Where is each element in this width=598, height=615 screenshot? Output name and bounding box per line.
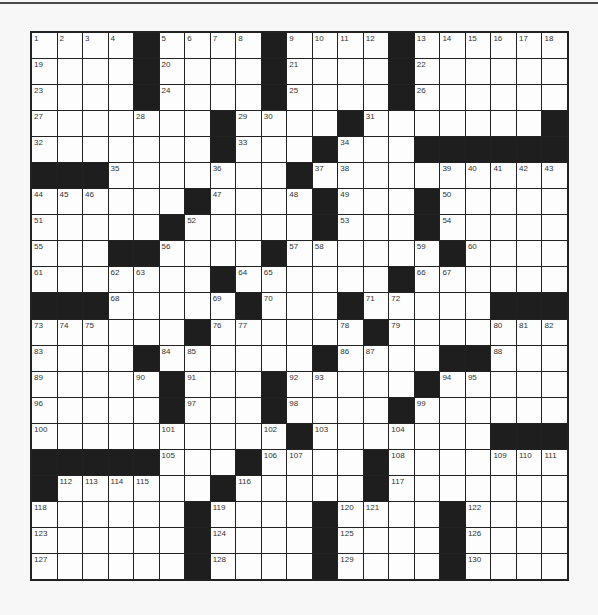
answer-cell[interactable] — [415, 554, 440, 579]
answer-cell[interactable] — [542, 398, 567, 423]
answer-cell[interactable]: 18 — [542, 33, 567, 58]
answer-cell[interactable]: 57 — [287, 241, 312, 266]
answer-cell[interactable] — [160, 163, 185, 188]
answer-cell[interactable] — [236, 346, 261, 371]
answer-cell[interactable] — [364, 267, 389, 292]
answer-cell[interactable] — [389, 111, 414, 136]
answer-cell[interactable] — [364, 554, 389, 579]
answer-cell[interactable]: 87 — [364, 346, 389, 371]
answer-cell[interactable] — [58, 346, 83, 371]
answer-cell[interactable] — [185, 137, 210, 162]
answer-cell[interactable] — [313, 59, 338, 84]
answer-cell[interactable]: 99 — [415, 398, 440, 423]
answer-cell[interactable] — [185, 424, 210, 449]
answer-cell[interactable]: 59 — [415, 241, 440, 266]
answer-cell[interactable] — [313, 267, 338, 292]
answer-cell[interactable] — [466, 398, 491, 423]
answer-cell[interactable] — [517, 85, 542, 110]
answer-cell[interactable] — [517, 267, 542, 292]
answer-cell[interactable]: 82 — [542, 320, 567, 345]
answer-cell[interactable] — [491, 372, 516, 397]
answer-cell[interactable]: 106 — [262, 450, 287, 475]
answer-cell[interactable] — [415, 346, 440, 371]
answer-cell[interactable]: 55 — [32, 241, 57, 266]
answer-cell[interactable] — [389, 137, 414, 162]
answer-cell[interactable]: 89 — [32, 372, 57, 397]
answer-cell[interactable] — [338, 424, 363, 449]
answer-cell[interactable] — [185, 476, 210, 501]
answer-cell[interactable] — [211, 450, 236, 475]
answer-cell[interactable]: 1 — [32, 33, 57, 58]
answer-cell[interactable] — [262, 320, 287, 345]
answer-cell[interactable] — [134, 163, 159, 188]
answer-cell[interactable] — [415, 450, 440, 475]
answer-cell[interactable]: 65 — [262, 267, 287, 292]
answer-cell[interactable] — [440, 450, 465, 475]
answer-cell[interactable]: 17 — [517, 33, 542, 58]
answer-cell[interactable] — [185, 293, 210, 318]
answer-cell[interactable]: 91 — [185, 372, 210, 397]
answer-cell[interactable] — [185, 111, 210, 136]
answer-cell[interactable] — [109, 398, 134, 423]
answer-cell[interactable]: 49 — [338, 189, 363, 214]
answer-cell[interactable] — [491, 241, 516, 266]
answer-cell[interactable] — [83, 241, 108, 266]
answer-cell[interactable] — [313, 85, 338, 110]
answer-cell[interactable] — [313, 450, 338, 475]
answer-cell[interactable] — [338, 267, 363, 292]
answer-cell[interactable]: 27 — [32, 111, 57, 136]
answer-cell[interactable]: 117 — [389, 476, 414, 501]
answer-cell[interactable] — [58, 424, 83, 449]
answer-cell[interactable] — [364, 163, 389, 188]
answer-cell[interactable]: 4 — [109, 33, 134, 58]
answer-cell[interactable] — [466, 320, 491, 345]
answer-cell[interactable] — [517, 502, 542, 527]
answer-cell[interactable]: 21 — [287, 59, 312, 84]
answer-cell[interactable] — [491, 554, 516, 579]
answer-cell[interactable] — [415, 502, 440, 527]
answer-cell[interactable] — [236, 189, 261, 214]
answer-cell[interactable] — [160, 137, 185, 162]
answer-cell[interactable] — [415, 424, 440, 449]
answer-cell[interactable] — [542, 189, 567, 214]
answer-cell[interactable] — [542, 267, 567, 292]
answer-cell[interactable] — [287, 293, 312, 318]
answer-cell[interactable]: 104 — [389, 424, 414, 449]
answer-cell[interactable] — [58, 554, 83, 579]
answer-cell[interactable] — [109, 424, 134, 449]
answer-cell[interactable] — [83, 502, 108, 527]
answer-cell[interactable] — [364, 215, 389, 240]
answer-cell[interactable]: 78 — [338, 320, 363, 345]
answer-cell[interactable] — [338, 59, 363, 84]
answer-cell[interactable]: 79 — [389, 320, 414, 345]
answer-cell[interactable] — [440, 320, 465, 345]
answer-cell[interactable] — [58, 241, 83, 266]
answer-cell[interactable]: 32 — [32, 137, 57, 162]
answer-cell[interactable] — [236, 528, 261, 553]
answer-cell[interactable] — [160, 189, 185, 214]
answer-cell[interactable]: 35 — [109, 163, 134, 188]
answer-cell[interactable] — [160, 267, 185, 292]
answer-cell[interactable] — [364, 85, 389, 110]
answer-cell[interactable]: 70 — [262, 293, 287, 318]
answer-cell[interactable]: 8 — [236, 33, 261, 58]
answer-cell[interactable] — [262, 215, 287, 240]
answer-cell[interactable] — [338, 241, 363, 266]
answer-cell[interactable] — [491, 476, 516, 501]
answer-cell[interactable]: 61 — [32, 267, 57, 292]
answer-cell[interactable] — [389, 502, 414, 527]
answer-cell[interactable]: 93 — [313, 372, 338, 397]
answer-cell[interactable]: 5 — [160, 33, 185, 58]
answer-cell[interactable] — [109, 320, 134, 345]
answer-cell[interactable]: 50 — [440, 189, 465, 214]
answer-cell[interactable] — [517, 346, 542, 371]
answer-cell[interactable] — [338, 398, 363, 423]
answer-cell[interactable] — [440, 85, 465, 110]
answer-cell[interactable] — [236, 163, 261, 188]
answer-cell[interactable] — [134, 554, 159, 579]
answer-cell[interactable] — [415, 320, 440, 345]
answer-cell[interactable] — [109, 85, 134, 110]
answer-cell[interactable] — [160, 111, 185, 136]
answer-cell[interactable] — [134, 424, 159, 449]
answer-cell[interactable]: 56 — [160, 241, 185, 266]
